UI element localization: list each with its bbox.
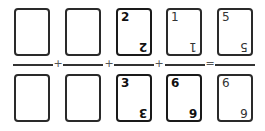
denominator-card-3[interactable]: 3 3 xyxy=(116,74,152,122)
plus-operator-1: + xyxy=(53,57,63,71)
plus-operator-3: + xyxy=(154,57,164,71)
card-value-bottom: 6 xyxy=(189,107,197,119)
card-value-top: 6 xyxy=(171,77,179,89)
fraction-bar-4 xyxy=(165,64,205,66)
card-value-bottom: 3 xyxy=(139,107,147,119)
numerator-card-1[interactable] xyxy=(14,8,50,56)
card-value-top: 1 xyxy=(171,11,179,23)
card-value-bottom: 1 xyxy=(189,41,197,53)
fraction-bar-3 xyxy=(114,64,154,66)
card-value-bottom: 2 xyxy=(139,41,147,53)
card-value-top: 5 xyxy=(222,11,230,23)
card-value-top: 3 xyxy=(121,77,129,89)
fraction-bar-1 xyxy=(13,64,53,66)
numerator-card-3[interactable]: 2 2 xyxy=(116,8,152,56)
denominator-card-5[interactable]: 6 6 xyxy=(217,74,253,122)
card-value-top: 6 xyxy=(222,77,230,89)
card-value-bottom: 5 xyxy=(240,41,248,53)
fraction-bar-2 xyxy=(63,64,103,66)
denominator-card-1[interactable] xyxy=(14,74,50,122)
denominator-card-2[interactable] xyxy=(65,74,101,122)
plus-operator-2: + xyxy=(104,57,114,71)
denominator-card-4[interactable]: 6 6 xyxy=(166,74,202,122)
numerator-card-2[interactable] xyxy=(65,8,101,56)
numerator-card-5[interactable]: 5 5 xyxy=(217,8,253,56)
equals-operator: = xyxy=(205,57,215,71)
card-value-bottom: 6 xyxy=(240,107,248,119)
numerator-card-4[interactable]: 1 1 xyxy=(166,8,202,56)
card-value-top: 2 xyxy=(121,11,129,23)
fraction-bar-5 xyxy=(215,64,255,66)
